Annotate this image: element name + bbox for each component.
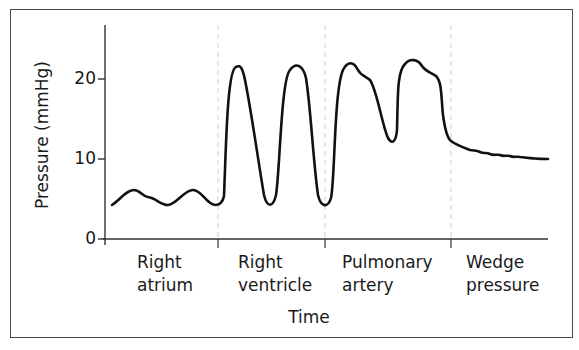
- category-label-line2: pressure: [466, 274, 539, 297]
- category-pulmonary-artery: Pulmonary artery: [342, 251, 433, 297]
- y-tick-label-10: 10: [56, 148, 96, 168]
- category-label-line2: atrium: [137, 274, 193, 297]
- category-label-line1: Pulmonary: [342, 251, 433, 274]
- category-right-atrium: Right atrium: [137, 251, 193, 297]
- chart-plot: [0, 0, 579, 350]
- category-right-ventricle: Right ventricle: [238, 251, 312, 297]
- category-wedge-pressure: Wedge pressure: [466, 251, 539, 297]
- category-label-line2: ventricle: [238, 274, 312, 297]
- category-label-line1: Right: [238, 251, 312, 274]
- x-axis-label: Time: [288, 307, 330, 327]
- category-label-line2: artery: [342, 274, 433, 297]
- y-tick-label-0: 0: [56, 228, 96, 248]
- category-label-line1: Right: [137, 251, 193, 274]
- y-axis-label: Pressure (mmHg): [32, 61, 52, 209]
- y-tick-label-20: 20: [56, 68, 96, 88]
- pressure-waveform: [112, 60, 548, 205]
- category-label-line1: Wedge: [466, 251, 539, 274]
